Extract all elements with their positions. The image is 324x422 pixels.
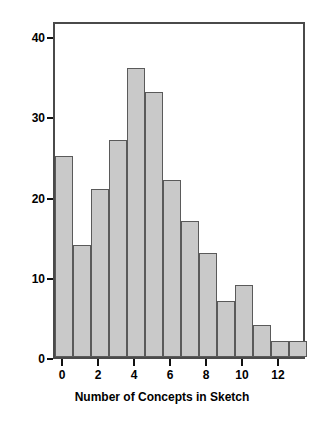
y-axis-tick-mark bbox=[47, 37, 53, 39]
y-axis-tick-labels: 010203040 bbox=[18, 0, 45, 422]
y-axis-tick-label: 30 bbox=[19, 111, 45, 125]
histogram-bar bbox=[235, 285, 253, 357]
histogram-bar bbox=[163, 180, 181, 357]
histogram-bar bbox=[271, 341, 289, 357]
y-axis-tick-label: 10 bbox=[19, 272, 45, 286]
histogram-bar bbox=[181, 221, 199, 357]
histogram-bar bbox=[91, 189, 109, 358]
histogram-bar bbox=[289, 341, 307, 357]
x-axis-tick-label: 2 bbox=[83, 368, 113, 382]
y-axis-tick-label: 0 bbox=[19, 352, 45, 366]
x-axis-tick-label: 10 bbox=[227, 368, 257, 382]
x-axis-tick-mark bbox=[169, 359, 171, 366]
histogram-bar bbox=[55, 156, 73, 357]
x-axis-tick-mark bbox=[133, 359, 135, 366]
x-axis-tick-mark bbox=[61, 359, 63, 366]
x-axis-tick-mark bbox=[277, 359, 279, 366]
x-axis-tick-mark bbox=[205, 359, 207, 366]
y-axis-tick-label: 40 bbox=[19, 31, 45, 45]
x-axis-tick-mark bbox=[97, 359, 99, 366]
histogram-bar bbox=[217, 301, 235, 357]
histogram-figure: Frequency 010203040 024681012 Number of … bbox=[0, 0, 324, 422]
histogram-bar bbox=[253, 325, 271, 357]
y-axis-tick-mark bbox=[47, 117, 53, 119]
histogram-bar bbox=[145, 92, 163, 357]
plot-area bbox=[53, 22, 305, 359]
bar-series bbox=[55, 24, 303, 357]
y-axis-tick-label: 20 bbox=[19, 192, 45, 206]
histogram-bar bbox=[73, 245, 91, 357]
x-axis-tick-label: 8 bbox=[191, 368, 221, 382]
x-axis-tick-label: 0 bbox=[47, 368, 77, 382]
histogram-bar bbox=[109, 140, 127, 357]
y-axis-tick-mark bbox=[47, 198, 53, 200]
histogram-bar bbox=[199, 253, 217, 357]
y-axis-tick-mark bbox=[47, 358, 53, 360]
x-axis-tick-label: 4 bbox=[119, 368, 149, 382]
x-axis-tick-label: 12 bbox=[263, 368, 293, 382]
x-axis-tick-label: 6 bbox=[155, 368, 185, 382]
y-axis-tick-mark bbox=[47, 278, 53, 280]
x-axis-tick-mark bbox=[241, 359, 243, 366]
x-axis-title: Number of Concepts in Sketch bbox=[0, 390, 324, 404]
histogram-bar bbox=[127, 68, 145, 357]
